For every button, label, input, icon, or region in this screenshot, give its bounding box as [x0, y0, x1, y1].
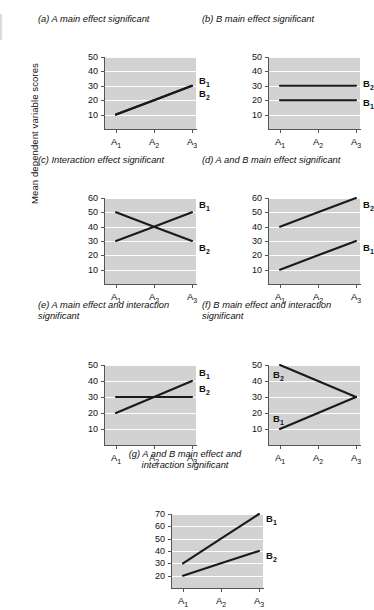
series-line-B₁: [280, 397, 356, 429]
scan-artifact: [0, 14, 3, 40]
series-line-B₁: [183, 514, 259, 563]
x-tick-label: A3: [187, 291, 197, 304]
panel-title-e: (e) A main effect and interaction signif…: [38, 300, 188, 322]
panel-f: (f) B main effect and interaction signif…: [202, 300, 352, 467]
panel-g: (g) A and B main effect and interaction …: [105, 449, 265, 610]
panel-d: (d) A and B main effect significant10203…: [202, 155, 354, 306]
panel-title-g: (g) A and B main effect and interaction …: [105, 449, 265, 471]
plot-area-g: 203040506070A1A2A3B1B2: [105, 471, 265, 610]
x-tick: [356, 130, 357, 133]
series-lines-c: [38, 166, 188, 306]
series-label-B₂: B2: [266, 550, 277, 563]
panel-title-c: (c) Interaction effect significant: [38, 155, 188, 166]
x-tick: [356, 285, 357, 288]
series-lines-b: [202, 25, 352, 151]
panel-title-a: (a) A main effect significant: [38, 14, 188, 25]
series-lines-a: [38, 25, 188, 151]
series-label-B₂: B2: [363, 78, 374, 91]
plot-area-d: 102030405060A1A2A3B2B1: [202, 166, 354, 306]
series-line-B₂: [280, 365, 356, 397]
series-label-B₁: B1: [363, 97, 374, 110]
panel-c: (c) Interaction effect significant102030…: [38, 155, 188, 306]
series-label-B₂: B2: [273, 369, 284, 382]
plot-area-b: 1020304050A1A2A3B2B1: [202, 25, 352, 151]
series-label-B₁: B1: [266, 513, 277, 526]
x-tick: [356, 446, 357, 449]
panel-b: (b) B main effect significant1020304050A…: [202, 14, 352, 151]
panel-a: (a) A main effect significant1020304050A…: [38, 14, 188, 151]
panel-title-f: (f) B main effect and interaction signif…: [202, 300, 352, 322]
plot-area-c: 102030405060A1A2A3B1B2: [38, 166, 188, 306]
series-line-B₂: [280, 198, 356, 227]
x-tick-label: A3: [351, 452, 361, 465]
series-lines-d: [202, 166, 354, 306]
series-lines-e: [38, 322, 188, 467]
series-lines-f: [202, 322, 352, 467]
panel-title-d: (d) A and B main effect significant: [202, 155, 354, 166]
series-label-B₁: B1: [363, 242, 374, 255]
x-tick: [192, 130, 193, 133]
series-label-B₂: B2: [363, 199, 374, 212]
plot-area-a: 1020304050A1A2A3B1B2: [38, 25, 188, 151]
panel-e: (e) A main effect and interaction signif…: [38, 300, 188, 467]
x-tick-label: A3: [187, 136, 197, 149]
panel-title-b: (b) B main effect significant: [202, 14, 352, 25]
plot-area-f: 1020304050A1A2A3B2B1: [202, 322, 352, 467]
series-lines-g: [105, 471, 265, 610]
series-line-B₁: [280, 241, 356, 270]
x-tick-label: A3: [351, 136, 361, 149]
plot-area-e: 1020304050A1A2A3B1B2: [38, 322, 188, 467]
series-line-B₂: [116, 86, 192, 115]
x-tick: [192, 285, 193, 288]
series-label-B₁: B1: [273, 413, 284, 426]
